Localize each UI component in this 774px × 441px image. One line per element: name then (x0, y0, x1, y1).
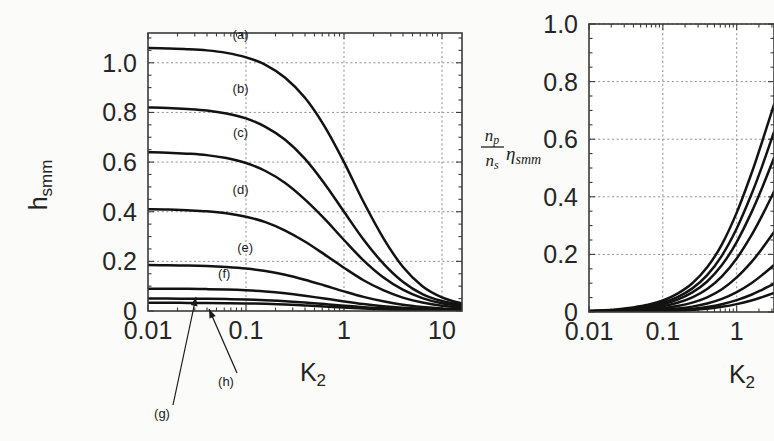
left-panel-y-tick-labels: 00.20.40.60.81.0 (102, 49, 137, 325)
curve-label-f: (f) (218, 266, 230, 281)
right-y-label-numerator: np (485, 126, 500, 147)
left-panel-x-tick-label: 10 (428, 316, 456, 344)
right-panel-y-tick-labels: 00.20.40.60.81.0 (543, 10, 578, 326)
figure-canvas: 00.20.40.60.81.00.010.1110(a)(b)(c)(d)(e… (0, 0, 774, 441)
curve-label-b: (b) (233, 81, 249, 96)
left-panel: 00.20.40.60.81.00.010.1110(a)(b)(c)(d)(e… (102, 27, 462, 421)
left-panel-y-tick-label: 0.4 (102, 198, 137, 226)
left-panel-x-tick-label: 1 (337, 316, 351, 344)
right-y-label-denominator: ns (485, 151, 499, 172)
left-panel-x-tick-label: 0.1 (229, 316, 264, 344)
right-panel-y-tick-label: 0.2 (543, 240, 578, 268)
left-panel-x-axis-title: K2 (300, 358, 326, 390)
right-panel-y-tick-label: 0.6 (543, 125, 578, 153)
right-x-axis-label-text: K2 (729, 360, 755, 392)
left-panel-y-tick-label: 0.8 (102, 98, 137, 126)
left-panel-plot-background (148, 33, 462, 311)
curve-label-a: (a) (233, 27, 249, 42)
right-panel-x-axis-title: K2 (729, 360, 755, 392)
curve-label-e: (e) (237, 240, 253, 255)
left-panel-x-tick-label: 0.01 (124, 316, 173, 344)
right-panel-x-tick-label: 1 (730, 317, 744, 345)
left-panel-x-tick-labels: 0.010.1110 (124, 316, 456, 344)
right-panel-x-tick-labels: 0.010.11 (565, 317, 744, 345)
right-panel-y-tick-label: 0.4 (543, 183, 578, 211)
left-y-axis-label-text: hsmm (24, 160, 56, 211)
annotation-label-g: (g) (154, 406, 170, 421)
left-panel-y-axis-title: hsmm (24, 160, 56, 211)
right-panel-y-tick-label: 1.0 (543, 10, 578, 38)
right-panel: 00.20.40.60.81.00.010.11 (543, 10, 774, 345)
right-panel-x-tick-label: 0.1 (645, 317, 680, 345)
curve-label-c: (c) (233, 125, 248, 140)
left-panel-y-tick-label: 0.2 (102, 247, 137, 275)
right-panel-y-axis-title: npnsηsmm (481, 126, 541, 172)
leader-line-g (173, 297, 196, 405)
annotation-label-h: (h) (218, 374, 234, 389)
left-panel-y-tick-label: 0.6 (102, 148, 137, 176)
left-x-axis-label-text: K2 (300, 358, 326, 390)
right-panel-y-tick-label: 0.8 (543, 68, 578, 96)
right-y-label-eta: ηsmm (506, 143, 541, 167)
right-panel-x-tick-label: 0.01 (565, 317, 614, 345)
left-panel-y-tick-label: 1.0 (102, 49, 137, 77)
two-panel-figure: 00.20.40.60.81.00.010.1110(a)(b)(c)(d)(e… (0, 0, 774, 441)
curve-label-d: (d) (233, 182, 249, 197)
